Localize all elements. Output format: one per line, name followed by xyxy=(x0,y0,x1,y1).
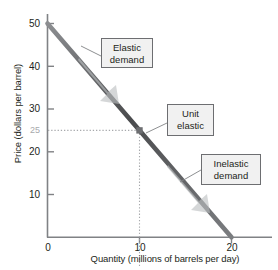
x-tick-label-0: 0 xyxy=(33,242,63,253)
leader-line-elastic xyxy=(81,46,101,56)
annotation-unit-elastic: Unit elastic xyxy=(167,104,214,136)
x-tick-label-10: 10 xyxy=(125,242,155,253)
y-tick-label-20: 20 xyxy=(10,146,40,157)
annotation-inelastic-demand: Inelastic demand xyxy=(201,154,261,185)
y-axis-ticks xyxy=(48,24,55,195)
unit-elastic-point xyxy=(136,127,142,133)
leader-line-unit xyxy=(146,123,167,133)
y-tick-label-10: 10 xyxy=(10,189,40,200)
annotation-elastic-demand: Elastic demand xyxy=(101,38,153,68)
annotation-inelastic-demand-line1: Inelastic xyxy=(206,158,256,170)
leader-line-inelastic xyxy=(180,170,201,182)
x-axis-title: Quantity (millions of barrels per day) xyxy=(52,253,278,264)
y-tick-label-50: 50 xyxy=(10,18,40,29)
x-tick-label-20: 20 xyxy=(217,242,247,253)
demand-elasticity-chart: Price (dollars per barrel) Quantity (mil… xyxy=(0,0,278,270)
annotation-unit-elastic-line1: Unit xyxy=(172,108,209,120)
y-tick-label-30: 30 xyxy=(10,103,40,114)
annotation-inelastic-demand-line2: demand xyxy=(206,170,256,182)
y-tick-label-25-highlight: 25 xyxy=(10,125,40,135)
annotation-elastic-demand-line1: Elastic xyxy=(106,42,148,54)
annotation-elastic-demand-line2: demand xyxy=(106,54,148,66)
y-tick-label-40: 40 xyxy=(10,61,40,72)
annotation-unit-elastic-line2: elastic xyxy=(172,120,209,132)
